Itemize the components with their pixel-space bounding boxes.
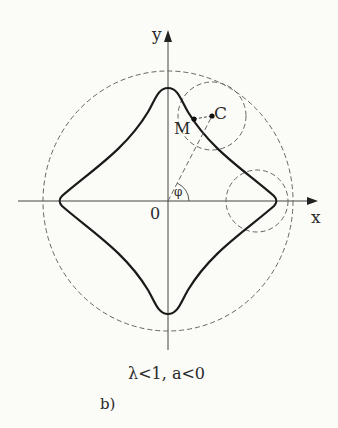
origin-label: 0 bbox=[150, 204, 160, 223]
point-m-label: M bbox=[174, 119, 190, 138]
panel-label: b) bbox=[100, 395, 115, 413]
angle-label: φ bbox=[174, 185, 182, 199]
caption: λ<1, a<0 bbox=[128, 364, 205, 383]
x-axis-arrow-icon bbox=[307, 197, 318, 205]
mc-segment bbox=[194, 116, 212, 119]
y-axis-arrow-icon bbox=[164, 30, 172, 42]
point-m bbox=[191, 116, 196, 121]
point-c-label: C bbox=[214, 103, 227, 123]
x-axis-label: x bbox=[311, 207, 321, 227]
y-axis-label: y bbox=[152, 24, 162, 44]
